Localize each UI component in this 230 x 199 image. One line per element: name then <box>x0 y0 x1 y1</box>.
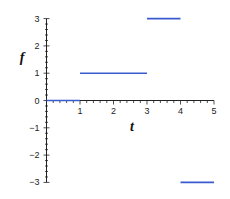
y-tick-label: 1 <box>34 68 39 78</box>
x-tick-label: 5 <box>211 106 216 116</box>
x-tick-label: 3 <box>144 106 149 116</box>
y-tick-label: 2 <box>34 41 39 51</box>
y-tick-label: −2 <box>29 150 39 160</box>
step-function-chart: 3210−1−2−312345tf <box>0 0 230 199</box>
y-tick-label: 0 <box>34 96 39 106</box>
x-tick-label: 4 <box>178 106 183 116</box>
x-tick-label: 2 <box>111 106 116 116</box>
y-tick-label: 3 <box>34 14 39 24</box>
y-tick-label: −1 <box>29 123 39 133</box>
y-axis-label: f <box>20 50 26 65</box>
x-tick-label: 1 <box>77 106 82 116</box>
y-tick-label: −3 <box>29 177 39 187</box>
x-axis-label: t <box>130 119 135 134</box>
